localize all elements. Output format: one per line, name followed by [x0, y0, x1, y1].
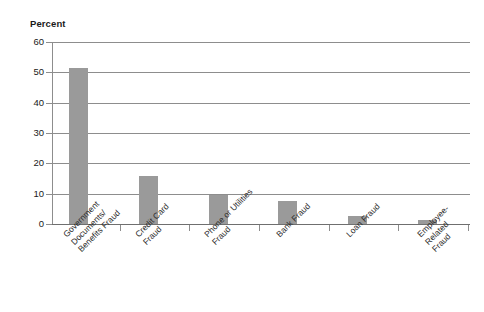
y-axis-tick-label: 50: [16, 67, 44, 77]
x-axis-tick-mark: [259, 225, 260, 231]
gridline: [52, 42, 470, 43]
x-axis-tick-mark: [189, 225, 190, 231]
y-axis-tick-mark: [46, 103, 52, 104]
y-axis-tick-label: 10: [16, 189, 44, 199]
x-axis-tick-mark: [398, 225, 399, 231]
y-axis-tick-label: 40: [16, 98, 44, 108]
gridline: [52, 103, 470, 104]
y-axis-tick-label: 0: [16, 219, 44, 229]
gridline: [52, 163, 470, 164]
y-axis-tick-mark: [46, 224, 52, 225]
y-axis-tick-mark: [46, 133, 52, 134]
gridline: [52, 224, 470, 225]
plot-area: [52, 42, 470, 224]
y-axis-tick-label: 30: [16, 128, 44, 138]
y-axis-tick-label: 20: [16, 158, 44, 168]
y-axis-tick-label: 60: [16, 37, 44, 47]
y-axis-tick-labels: 6050403020100: [8, 0, 44, 312]
gridline: [52, 194, 470, 195]
y-axis-tick-mark: [46, 42, 52, 43]
x-axis-tick-mark: [329, 225, 330, 231]
x-axis-tick-mark: [120, 225, 121, 231]
y-axis-tick-mark: [46, 163, 52, 164]
y-axis-tick-mark: [46, 194, 52, 195]
gridline: [52, 133, 470, 134]
x-axis-tick-mark: [468, 225, 469, 231]
y-axis-tick-mark: [46, 72, 52, 73]
gridline: [52, 72, 470, 73]
chart-screenshot: Percent 6050403020100 Government Documen…: [0, 0, 484, 312]
bar: [69, 68, 88, 224]
